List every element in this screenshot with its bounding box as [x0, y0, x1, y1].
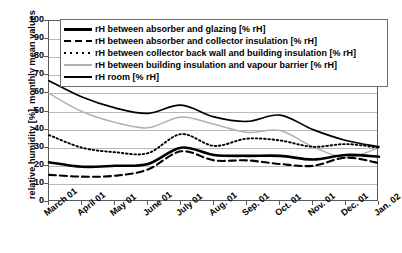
legend-item-label: rH room [% rH] [95, 72, 159, 83]
y-axis-tick-label: 10 [18, 178, 44, 187]
legend-line-swatch-icon [64, 24, 92, 34]
legend-line-swatch-icon [64, 72, 92, 82]
legend-item[interactable]: rH between collector back wall and build… [64, 47, 383, 59]
y-axis-tick-label: 60 [18, 87, 44, 96]
legend-item[interactable]: rH between absorber and glazing [% rH] [64, 23, 383, 35]
legend-item-label: rH between absorber and glazing [% rH] [95, 24, 266, 35]
legend-line-swatch-icon [64, 48, 92, 58]
chart-legend: rH between absorber and glazing [% rH]rH… [60, 19, 388, 87]
legend-line-swatch-icon [64, 36, 92, 46]
legend-item-label: rH between collector back wall and build… [95, 48, 356, 59]
y-axis-tick-label: 40 [18, 124, 44, 133]
legend-item[interactable]: rH between absorber and collector insula… [64, 35, 383, 47]
y-axis-tick-label: 100 [18, 15, 44, 24]
series-line [49, 81, 379, 147]
legend-item-label: rH between building insulation and vapou… [95, 60, 337, 71]
y-axis-tick-label: 90 [18, 33, 44, 42]
y-axis-tick-label: 80 [18, 51, 44, 60]
y-axis-tick-label: 0 [18, 196, 44, 205]
legend-item[interactable]: rH between building insulation and vapou… [64, 59, 383, 71]
series-line [49, 134, 379, 154]
y-axis-tick-label: 70 [18, 69, 44, 78]
y-axis-tick-label: 20 [18, 160, 44, 169]
legend-line-swatch-icon [64, 60, 92, 70]
legend-item-label: rH between absorber and collector insula… [95, 36, 317, 47]
legend-item[interactable]: rH room [% rH] [64, 71, 383, 83]
y-axis-tick-label: 30 [18, 142, 44, 151]
y-axis-tick-label: 50 [18, 106, 44, 115]
